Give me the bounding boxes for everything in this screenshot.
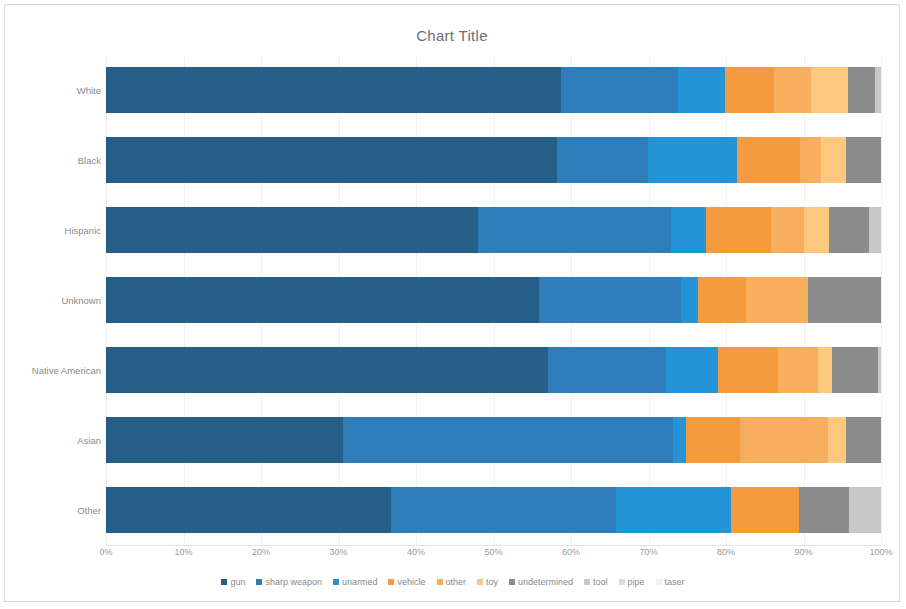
legend-item[interactable]: vehicle [388,577,425,587]
bar-segment[interactable] [681,277,698,323]
bar-segment[interactable] [106,277,539,323]
chart-title: Chart Title [5,27,899,44]
bar-row[interactable] [106,207,881,253]
bar-segment[interactable] [343,417,673,463]
bar-segment[interactable] [731,487,799,533]
bar-segment[interactable] [849,487,881,533]
legend-swatch-icon [619,579,625,585]
bar-row[interactable] [106,137,881,183]
gridline [881,55,882,545]
bar-segment[interactable] [725,67,774,113]
bar-segment[interactable] [821,137,846,183]
legend-label: pipe [628,577,645,587]
bar-segment[interactable] [671,207,706,253]
bar-segment[interactable] [778,347,818,393]
bar-segment[interactable] [106,347,548,393]
chart-container: Chart Title WhiteBlackHispanicUnknownNat… [4,4,900,602]
bar-segment[interactable] [818,347,832,393]
y-axis-category-label: Hispanic [5,225,101,236]
plot-area: WhiteBlackHispanicUnknownNative American… [5,55,901,553]
bar-row[interactable] [106,487,881,533]
bar-segment[interactable] [539,277,681,323]
x-axis-tick-label: 40% [407,547,425,557]
bar-segment[interactable] [740,417,828,463]
bar-segment[interactable] [648,137,737,183]
bar-segment[interactable] [718,347,778,393]
legend-label: tool [593,577,608,587]
bar-segment[interactable] [875,67,881,113]
legend-swatch-icon [509,579,515,585]
legend-swatch-icon [656,579,662,585]
bar-row[interactable] [106,347,881,393]
legend-swatch-icon [221,579,227,585]
legend-label: undetermined [518,577,573,587]
x-axis-tick-label: 50% [484,547,502,557]
bar-segment[interactable] [391,487,616,533]
bar-segment[interactable] [106,137,557,183]
x-axis-tick-label: 100% [869,547,892,557]
legend-label: unarmed [342,577,378,587]
bar-segment[interactable] [686,417,740,463]
legend-item[interactable]: toy [477,577,498,587]
bar-segment[interactable] [804,207,829,253]
legend-swatch-icon [584,579,590,585]
bar-segment[interactable] [678,67,725,113]
legend-label: sharp weapon [265,577,322,587]
bar-segment[interactable] [848,67,874,113]
y-axis-category-label: Asian [5,435,101,446]
bar-segment[interactable] [616,487,731,533]
x-axis-tick-label: 10% [174,547,192,557]
bar-segment[interactable] [774,67,811,113]
legend-item[interactable]: taser [656,577,685,587]
bar-segment[interactable] [846,137,881,183]
legend-item[interactable]: unarmed [333,577,378,587]
bar-segment[interactable] [561,67,678,113]
bar-segment[interactable] [829,207,869,253]
bar-segment[interactable] [478,207,671,253]
bar-segment[interactable] [548,347,666,393]
legend-swatch-icon [256,579,262,585]
bar-row[interactable] [106,277,881,323]
legend-swatch-icon [388,579,394,585]
bar-segment[interactable] [846,417,881,463]
bar-row[interactable] [106,67,881,113]
bar-segment[interactable] [832,347,878,393]
stacked-bars [106,55,881,545]
legend-label: toy [486,577,498,587]
bar-segment[interactable] [800,137,822,183]
bar-segment[interactable] [106,67,561,113]
bar-segment[interactable] [869,207,881,253]
bar-segment[interactable] [811,67,848,113]
bar-segment[interactable] [106,417,343,463]
bar-segment[interactable] [799,487,849,533]
legend-item[interactable]: undetermined [509,577,573,587]
legend-item[interactable]: gun [221,577,245,587]
x-axis-tick-label: 20% [252,547,270,557]
bar-row[interactable] [106,417,881,463]
legend-label: taser [665,577,685,587]
x-axis-line [106,545,881,546]
bar-segment[interactable] [771,207,804,253]
legend-label: other [446,577,467,587]
legend-item[interactable]: other [437,577,467,587]
bar-segment[interactable] [666,347,719,393]
legend-item[interactable]: sharp weapon [256,577,322,587]
bar-segment[interactable] [828,417,846,463]
y-axis-category-label: Unknown [5,295,101,306]
bar-segment[interactable] [698,277,746,323]
y-axis-category-label: Other [5,505,101,516]
bar-segment[interactable] [106,207,478,253]
bar-segment[interactable] [746,277,808,323]
bar-segment[interactable] [106,487,391,533]
legend-item[interactable]: pipe [619,577,645,587]
bar-segment[interactable] [673,417,686,463]
bar-segment[interactable] [878,347,881,393]
x-axis-tick-labels: 0%10%20%30%40%50%60%70%80%90%100% [106,547,881,565]
x-axis-tick-label: 30% [329,547,347,557]
legend-item[interactable]: tool [584,577,608,587]
bar-segment[interactable] [737,137,800,183]
bar-segment[interactable] [557,137,648,183]
bar-segment[interactable] [808,277,881,323]
legend-swatch-icon [437,579,443,585]
bar-segment[interactable] [706,207,771,253]
